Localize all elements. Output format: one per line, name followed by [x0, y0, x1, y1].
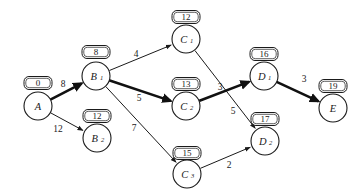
edge-weight-c1-d2: 5	[231, 106, 236, 116]
node-tag-a: 0	[24, 77, 52, 90]
node-tag-b2: 12	[83, 110, 111, 123]
node-tag-value-c1: 12	[182, 12, 191, 22]
node-tag-b1: 8	[82, 46, 110, 59]
edge-weight-b1-c2: 5	[137, 93, 142, 103]
node-subscript-d1: 1	[268, 74, 271, 81]
node-tag-value-b1: 8	[94, 47, 99, 57]
node-tag-d1: 16	[250, 48, 278, 61]
edge-weight-c2-d1: 3	[218, 82, 223, 92]
node-b2[interactable]: B2	[83, 124, 111, 152]
node-d1[interactable]: D1	[250, 62, 278, 90]
node-c2[interactable]: C2	[172, 92, 200, 120]
node-tag-d2: 17	[251, 113, 279, 126]
edge-c1-to-d2	[195, 50, 255, 128]
node-tag-value-d1: 16	[260, 49, 270, 59]
edge-weight-c3-d2: 2	[227, 160, 232, 170]
edge-a-to-b1	[51, 84, 81, 100]
node-d2[interactable]: D2	[251, 127, 279, 155]
edge-c3-to-d2	[200, 147, 250, 168]
edge-weight-a-b1: 8	[61, 79, 66, 89]
nodes-layer: A0B18B212C112C213C315D116D217E19	[24, 11, 347, 189]
node-tag-value-d2: 17	[261, 114, 271, 124]
node-tag-value-c2: 13	[182, 79, 192, 89]
edge-b1-to-c1	[109, 45, 171, 70]
node-label-a: A	[34, 101, 42, 112]
node-subscript-b1: 1	[100, 74, 103, 81]
network-diagram-canvas: A0B18B212C112C213C315D116D217E19 8124575…	[0, 0, 357, 196]
node-c1[interactable]: C1	[172, 25, 200, 53]
node-label-c1: C	[180, 34, 188, 45]
network-diagram: A0B18B212C112C213C315D116D217E19 8124575…	[0, 0, 357, 196]
node-label-e: E	[329, 103, 337, 114]
node-label-b1: B	[91, 71, 98, 82]
node-e[interactable]: E	[319, 94, 347, 122]
node-label-b2: B	[92, 133, 99, 144]
node-tag-c1: 12	[172, 11, 200, 24]
node-label-c3: C	[181, 169, 189, 180]
node-label-c2: C	[180, 101, 188, 112]
node-b1[interactable]: B1	[82, 62, 110, 90]
node-tag-value-c3: 15	[183, 148, 193, 158]
edge-d1-to-e	[277, 82, 317, 101]
edge-c2-to-d1	[200, 82, 249, 101]
node-subscript-c1: 1	[190, 37, 193, 44]
node-tag-value-b2: 12	[93, 111, 102, 121]
node-tag-value-a: 0	[36, 78, 41, 88]
node-label-d2: D	[258, 136, 267, 147]
node-tag-e: 19	[319, 80, 347, 93]
node-tag-value-e: 19	[329, 81, 339, 91]
node-c3[interactable]: C3	[173, 160, 201, 188]
edge-weight-b1-c1: 4	[134, 49, 139, 59]
node-label-d1: D	[257, 71, 266, 82]
edge-weight-d1-e: 3	[302, 74, 307, 84]
node-tag-c2: 13	[172, 78, 200, 91]
edge-weight-a-b2: 12	[53, 124, 63, 134]
node-a[interactable]: A	[24, 92, 52, 120]
node-tag-c3: 15	[173, 147, 201, 160]
edge-weight-b1-c3: 7	[132, 123, 137, 133]
